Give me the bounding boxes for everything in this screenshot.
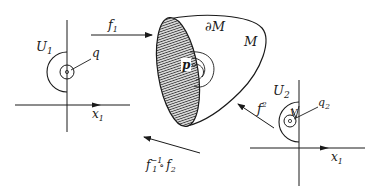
left-q-leader <box>71 59 91 70</box>
transition-arrow-line <box>144 137 200 153</box>
right-chart: U2 V q2 x1 <box>250 80 365 186</box>
arrow-f2: f2 <box>238 100 274 128</box>
right-axis-arrow-icon <box>320 146 329 151</box>
left-region-label: U1 <box>36 39 53 56</box>
arrow-transition: f−11∘f2 <box>144 137 200 174</box>
manifold-point-label: p <box>182 58 191 72</box>
left-axis-label: x1 <box>92 107 104 123</box>
manifold-charts-diagram: U1 q x1 f1 p ∂M M f2 U2 V q2 x1 <box>0 0 376 193</box>
right-axis-label: x1 <box>331 150 343 166</box>
left-half-disk <box>47 52 67 92</box>
manifold: p ∂M M <box>150 15 266 130</box>
transition-label: f−11∘f2 <box>145 156 176 174</box>
manifold-label: M <box>243 34 258 49</box>
right-point-label: q2 <box>318 96 330 111</box>
f2-arrow-line <box>238 104 274 128</box>
right-point-q2-dot <box>288 119 291 122</box>
f1-label: f1 <box>107 17 118 34</box>
diagram-canvas: U1 q x1 f1 p ∂M M f2 U2 V q2 x1 <box>0 0 376 193</box>
left-point-label: q <box>92 46 100 60</box>
left-chart: U1 q x1 <box>15 20 130 132</box>
right-region-label: U2 <box>273 83 290 100</box>
boundary-label: ∂M <box>205 19 226 34</box>
f2-label: f2 <box>256 100 267 116</box>
arrow-f1: f1 <box>91 17 152 35</box>
